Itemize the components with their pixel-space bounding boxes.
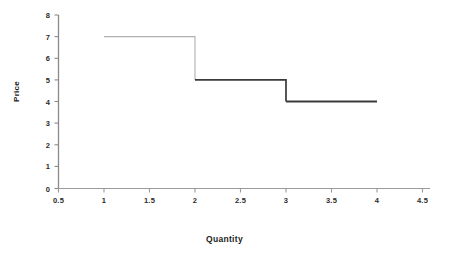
step-segment-price-5 bbox=[195, 80, 286, 102]
x-tick-label-2: 2 bbox=[193, 196, 197, 205]
x-tick-label-1: 1 bbox=[102, 196, 106, 205]
y-tick-label-6: 6 bbox=[38, 54, 50, 63]
y-tick-label-1: 1 bbox=[38, 162, 50, 171]
chart-container: 8 7 6 5 4 3 2 1 0 0.5 1 1.5 2 2.5 3 3.5 … bbox=[0, 0, 449, 265]
step-chart-plot bbox=[0, 0, 449, 265]
y-axis-title: Price bbox=[12, 81, 21, 102]
y-tick-label-8: 8 bbox=[38, 11, 50, 20]
x-tick-label-2-5: 2.5 bbox=[235, 196, 246, 205]
y-tick-label-5: 5 bbox=[38, 75, 50, 84]
y-tick-label-0: 0 bbox=[38, 184, 50, 193]
y-tick-label-2: 2 bbox=[38, 140, 50, 149]
x-tick-label-3-5: 3.5 bbox=[326, 196, 337, 205]
y-tick-label-7: 7 bbox=[38, 32, 50, 41]
y-tick-label-4: 4 bbox=[38, 97, 50, 106]
x-axis-ticks bbox=[59, 189, 423, 193]
x-axis-title: Quantity bbox=[0, 234, 449, 244]
x-tick-label-1-5: 1.5 bbox=[144, 196, 155, 205]
x-tick-label-3: 3 bbox=[284, 196, 288, 205]
x-tick-label-0-5: 0.5 bbox=[53, 196, 64, 205]
y-tick-label-3: 3 bbox=[38, 119, 50, 128]
step-segment-price-7 bbox=[104, 37, 195, 80]
x-tick-label-4-5: 4.5 bbox=[417, 196, 428, 205]
x-tick-label-4: 4 bbox=[375, 196, 379, 205]
